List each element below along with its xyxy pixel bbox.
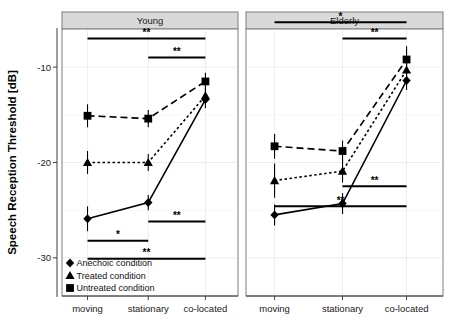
significance-label: ** (371, 27, 379, 38)
y-axis: -10-20-30 (37, 28, 57, 297)
x-tick-label: co-located (385, 303, 429, 314)
legend-label: Untreated condition (77, 283, 155, 293)
significance-label: * (116, 229, 120, 240)
x-tick-label: stationary (128, 303, 169, 314)
y-tick-label: -10 (37, 62, 51, 73)
chart-canvas: Speech Reception Threshold [dB]-10-20-30… (0, 0, 452, 336)
x-axis-elderly: movingstationaryco-located (246, 296, 443, 314)
panel-strip-label: Young (137, 15, 164, 26)
x-tick-label: moving (259, 303, 290, 314)
legend-label: Treated condition (77, 271, 146, 281)
x-tick-label: moving (72, 303, 103, 314)
significance-label: ** (173, 46, 181, 57)
legend: Anechoic conditionTreated conditionUntre… (65, 258, 154, 293)
legend-marker-square (66, 284, 74, 292)
y-tick-label: -20 (37, 157, 51, 168)
x-tick-label: stationary (322, 303, 363, 314)
marker-square (271, 142, 279, 150)
marker-square (202, 78, 210, 86)
significance-label: ** (143, 27, 151, 38)
marker-square (84, 112, 92, 120)
marker-square (339, 147, 347, 155)
panel-young: Young*********movingstationaryco-located (62, 12, 238, 314)
legend-label: Anechoic condition (77, 258, 153, 268)
x-axis-young: movingstationaryco-located (62, 296, 238, 314)
panel-strip-label: Elderly (330, 15, 359, 26)
y-axis-title-group: Speech Reception Threshold [dB] (6, 70, 18, 255)
y-axis-title: Speech Reception Threshold [dB] (6, 70, 18, 255)
marker-square (144, 115, 152, 123)
significance-label: ** (143, 247, 151, 258)
marker-square (403, 56, 411, 64)
panel-elderly: Elderly*******movingstationaryco-located (246, 11, 443, 314)
significance-label: * (339, 11, 343, 22)
significance-label: ** (371, 175, 379, 186)
chart-figure: Speech Reception Threshold [dB]-10-20-30… (0, 0, 452, 336)
x-tick-label: co-located (184, 303, 228, 314)
y-tick-label: -30 (37, 252, 51, 263)
significance-label: ** (173, 210, 181, 221)
